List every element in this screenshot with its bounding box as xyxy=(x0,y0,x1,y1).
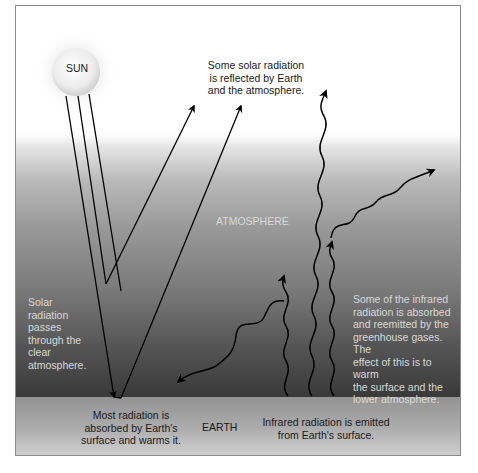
reflected-ray-surface xyxy=(121,106,241,398)
greenhouse-line-5: effect of this is to warm xyxy=(353,356,460,381)
infrared-emitted-line-2: from Earth's surface. xyxy=(251,429,401,442)
reflected-line-1: Some solar radiation xyxy=(191,59,321,72)
solar-passes-line-1: Solar xyxy=(28,296,86,309)
greenhouse-line-1: Some of the infrared xyxy=(353,293,460,306)
solar-passes-label: Solar radiation passes through the clear… xyxy=(28,296,86,371)
diagram-frame: SUN Some solar radiation is reflected by… xyxy=(15,5,461,456)
infrared-emitted-label: Infrared radiation is emitted from Earth… xyxy=(251,416,401,441)
solar-passes-line-4: through the xyxy=(28,334,86,347)
surface-absorption-line-3: surface and warms it. xyxy=(66,434,196,447)
greenhouse-line-2: radiation is absorbed xyxy=(353,306,460,319)
solar-passes-line-5: clear xyxy=(28,346,86,359)
greenhouse-absorption-label: Some of the infrared radiation is absorb… xyxy=(353,293,460,406)
solar-passes-line-6: atmosphere. xyxy=(28,359,86,372)
infrared-short-arrow xyxy=(283,276,289,396)
greenhouse-line-6: the surface and the xyxy=(353,381,460,394)
earth-label: EARTH xyxy=(202,421,237,434)
reflected-ray-atmosphere xyxy=(106,106,194,284)
surface-absorption-line-2: absorbed by Earth's xyxy=(66,422,196,435)
solar-ray-3 xyxy=(89,94,121,291)
infrared-reemitted-up-arrow xyxy=(331,170,434,238)
infrared-emitted-line-1: Infrared radiation is emitted xyxy=(251,416,401,429)
reflected-radiation-label: Some solar radiation is reflected by Ear… xyxy=(191,59,321,97)
infrared-escape-arrow xyxy=(309,91,326,396)
greenhouse-line-4: greenhouse gases. The xyxy=(353,331,460,356)
surface-absorption-label: Most radiation is absorbed by Earth's su… xyxy=(66,409,196,447)
reflected-line-2: is reflected by Earth xyxy=(191,72,321,85)
greenhouse-line-7: lower atmosphere. xyxy=(353,393,460,406)
atmosphere-label: ATMOSPHERE xyxy=(216,215,289,228)
solar-passes-line-3: passes xyxy=(28,321,86,334)
reflected-ray-base xyxy=(114,397,121,398)
solar-passes-line-2: radiation xyxy=(28,309,86,322)
surface-absorption-line-1: Most radiation is xyxy=(66,409,196,422)
reflected-line-3: and the atmosphere. xyxy=(191,84,321,97)
sun-label: SUN xyxy=(62,62,92,75)
greenhouse-line-3: and reemitted by the xyxy=(353,318,460,331)
reflected-rays xyxy=(106,106,241,398)
infrared-tall-arrow xyxy=(330,242,335,396)
infrared-reemitted-down-arrow xyxy=(178,301,284,382)
